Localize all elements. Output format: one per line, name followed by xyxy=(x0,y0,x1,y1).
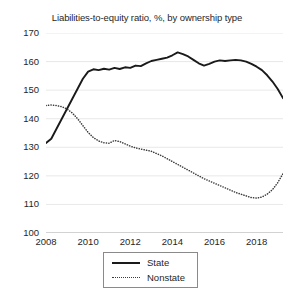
legend-item-nonstate: Nonstate xyxy=(111,271,185,285)
legend-line-solid-icon xyxy=(111,258,141,268)
chart-title: Liabilities-to-equity ratio, %, by owner… xyxy=(0,12,294,23)
x-tick-label: 2010 xyxy=(78,236,99,248)
x-tick-label: 2018 xyxy=(246,236,267,248)
y-tick-label: 150 xyxy=(23,85,39,95)
y-tick-label: 170 xyxy=(23,28,39,38)
y-axis: 100110120130140150160170 xyxy=(0,33,42,233)
y-tick-label: 120 xyxy=(23,171,39,181)
x-tick-label: 2008 xyxy=(35,236,56,248)
x-tick-label: 2012 xyxy=(120,236,141,248)
legend-label-nonstate: Nonstate xyxy=(147,273,185,283)
series-lines xyxy=(46,33,283,233)
plot-area xyxy=(46,33,283,233)
chart-legend: State Nonstate xyxy=(103,252,198,288)
legend-line-dotted-icon xyxy=(111,273,141,283)
legend-label-state: State xyxy=(147,258,169,268)
series-line-state xyxy=(46,52,283,143)
y-tick-label: 110 xyxy=(24,199,39,209)
x-tick-label: 2016 xyxy=(204,236,225,248)
legend-item-state: State xyxy=(111,256,169,270)
liabilities-to-equity-chart: Liabilities-to-equity ratio, %, by owner… xyxy=(0,0,294,298)
y-tick-label: 130 xyxy=(23,142,39,152)
x-axis: 200820102012201420162018 xyxy=(46,236,283,250)
y-tick-label: 140 xyxy=(23,114,39,124)
x-tick-label: 2014 xyxy=(162,236,183,248)
series-line-nonstate xyxy=(46,105,283,198)
y-tick-label: 160 xyxy=(23,57,39,67)
